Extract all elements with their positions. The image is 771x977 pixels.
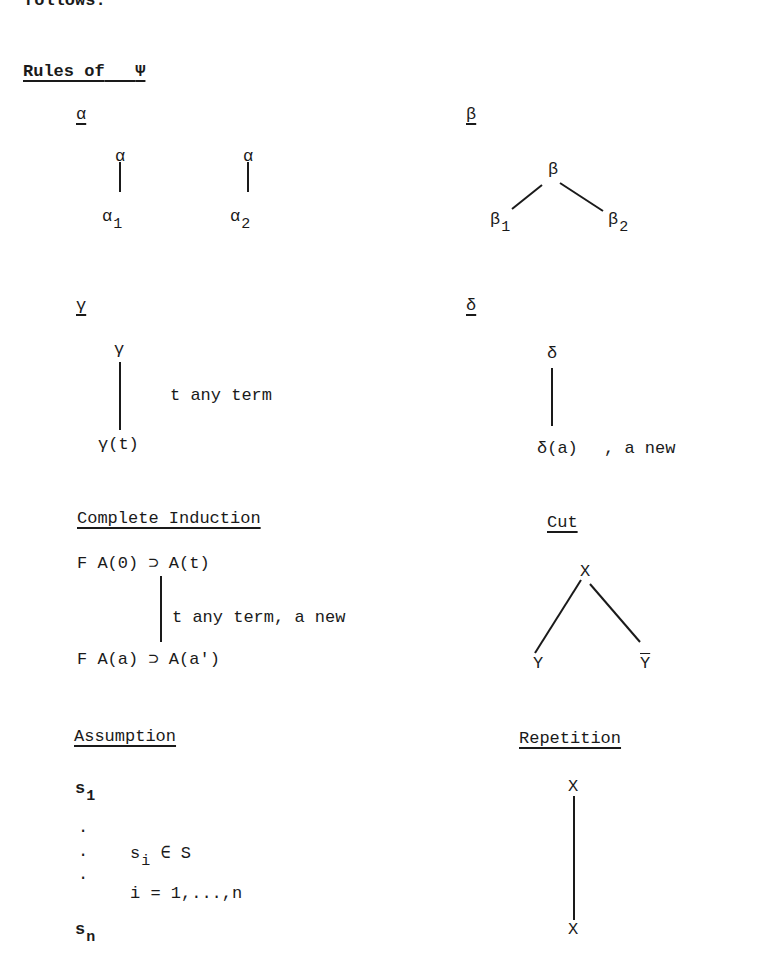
assumption-last: sn	[75, 921, 95, 938]
repetition-bottom: X	[568, 921, 578, 938]
assumption-condition-membership: si ∈ S	[130, 845, 191, 862]
assumption-rule-label: Assumption	[74, 728, 176, 745]
assumption-dot-3: ·	[78, 869, 88, 886]
assumption-dot-2: ·	[78, 846, 88, 863]
assumption-condition-range: i = 1,...,n	[130, 885, 242, 902]
cut-right-negated: Y	[640, 655, 650, 672]
repetition-rule-label: Repetition	[519, 730, 621, 747]
assumption-dot-1: ·	[78, 822, 88, 839]
repetition-connector	[573, 796, 575, 920]
cut-left: Y	[533, 655, 543, 672]
assumption-first: s1	[75, 780, 95, 797]
repetition-top: X	[568, 778, 578, 795]
cut-branch-lines	[0, 0, 771, 977]
